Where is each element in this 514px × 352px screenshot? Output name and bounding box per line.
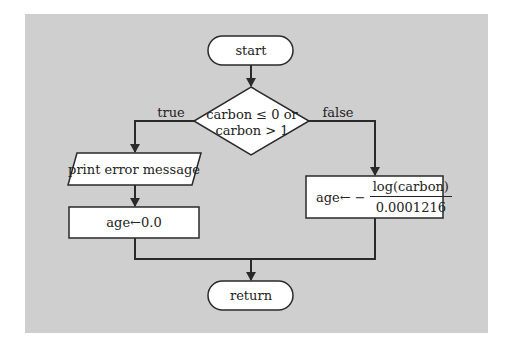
arrowhead-icon [246,78,256,87]
start-label: start [235,44,266,57]
fraction-denominator: 0.0001216 [370,197,452,215]
fraction-numerator: log(carbon) [370,179,452,197]
arrowhead-icon [370,167,380,176]
arrowhead-icon [130,144,140,153]
fraction: log(carbon) 0.0001216 [370,179,452,215]
arrowhead-icon [246,272,256,281]
age-zero-label: age←0.0 [106,216,161,229]
age-calc-formula: age← − log(carbon) 0.0001216 [316,179,452,215]
return-label: return [230,289,272,302]
age-calc-prefix: age← − [316,190,366,205]
edge-label-false: false [322,106,353,119]
edge-false-branch [309,121,375,175]
decision-label-line1: carbon ≤ 0 or [206,108,297,121]
arrowhead-icon [130,198,140,207]
edge-label-true: true [157,106,185,119]
print-error-label: print error message [68,163,200,176]
decision-label-line2: carbon > 1 [215,124,288,137]
edge-true-branch [135,121,194,152]
